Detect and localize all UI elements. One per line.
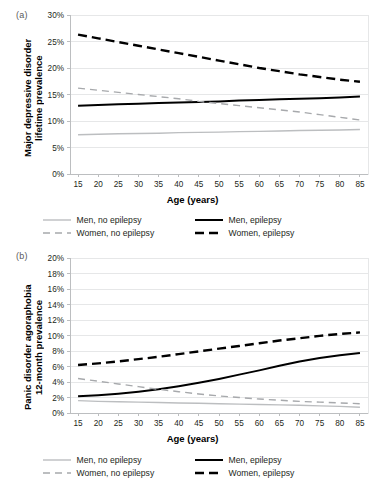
- legend-swatch-icon: [42, 455, 72, 465]
- y-tick-labels: 0%5%10%15%20%25%30%: [48, 11, 64, 179]
- legend-label: Men, no epilepsy: [77, 215, 142, 225]
- gridlines: [70, 258, 368, 413]
- x-tick-label: 45: [194, 419, 204, 428]
- x-tick-label: 30: [134, 419, 144, 428]
- series-line: [78, 332, 360, 365]
- x-tick-label: 60: [255, 419, 265, 428]
- chart-svg-b: 0%2%4%6%8%10%12%14%16%18%20%152025303540…: [38, 253, 378, 431]
- y-tick-label: 6%: [52, 363, 64, 372]
- x-tick-label: 45: [194, 180, 204, 189]
- y-tick-label: 0%: [52, 409, 64, 418]
- panel-b-label: (b): [16, 251, 28, 261]
- x-tick-label: 65: [275, 419, 285, 428]
- x-tick-label: 80: [335, 180, 345, 189]
- legend-label: Women, epilepsy: [229, 228, 295, 238]
- y-tick-label: 4%: [52, 378, 64, 387]
- y-tick-label: 16%: [48, 285, 64, 294]
- legend-label: Women, epilepsy: [229, 468, 295, 478]
- legend-swatch-icon: [42, 468, 72, 478]
- y-tick-label: 20%: [48, 64, 64, 73]
- x-tick-label: 70: [295, 419, 305, 428]
- x-tick-marks: [67, 15, 360, 177]
- y-tick-label: 8%: [52, 347, 64, 356]
- legend-swatch-icon: [42, 228, 72, 238]
- x-tick-labels: 152025303540455055606570758085: [73, 180, 364, 189]
- legend-item: Men, epilepsy: [194, 455, 344, 465]
- y-tick-label: 2%: [52, 394, 64, 403]
- x-tick-label: 25: [114, 419, 124, 428]
- y-tick-label: 30%: [48, 11, 64, 20]
- x-tick-label: 80: [335, 419, 345, 428]
- x-tick-label: 60: [255, 180, 265, 189]
- x-tick-label: 50: [214, 419, 224, 428]
- panel-b: (b) Panic disorder agoraphobia 12-month …: [0, 245, 385, 495]
- y-tick-label: 12%: [48, 316, 64, 325]
- x-tick-label: 40: [174, 180, 184, 189]
- legend-label: Men, epilepsy: [229, 215, 282, 225]
- panel-b-legend: Men, no epilepsyMen, epilepsyWomen, no e…: [0, 455, 385, 478]
- y-tick-label: 10%: [48, 117, 64, 126]
- series-group: [78, 332, 360, 407]
- gridlines: [70, 15, 368, 174]
- x-tick-label: 25: [114, 180, 124, 189]
- legend-item: Women, epilepsy: [194, 468, 344, 478]
- series-line: [78, 353, 360, 396]
- legend-item: Men, epilepsy: [194, 215, 344, 225]
- series-line: [78, 129, 360, 134]
- legend-item: Men, no epilepsy: [42, 215, 194, 225]
- legend-label: Women, no epilepsy: [77, 228, 155, 238]
- x-tick-label: 15: [73, 180, 83, 189]
- chart-svg-a: 0%5%10%15%20%25%30%152025303540455055606…: [38, 10, 378, 192]
- x-tick-label: 75: [315, 180, 325, 189]
- panel-b-x-axis-title: Age (years): [0, 433, 385, 444]
- legend-item: Women, no epilepsy: [42, 228, 194, 238]
- x-tick-label: 30: [134, 180, 144, 189]
- x-tick-label: 20: [94, 180, 104, 189]
- x-tick-label: 55: [235, 419, 245, 428]
- x-tick-label: 85: [355, 180, 365, 189]
- legend-label: Men, no epilepsy: [77, 455, 142, 465]
- legend-swatch-icon: [194, 455, 224, 465]
- x-tick-label: 50: [214, 180, 224, 189]
- legend-item: Women, no epilepsy: [42, 468, 194, 478]
- legend-label: Women, no epilepsy: [77, 468, 155, 478]
- x-tick-label: 75: [315, 419, 325, 428]
- x-tick-label: 55: [235, 180, 245, 189]
- y-tick-label: 0%: [52, 170, 64, 179]
- y-tick-label: 20%: [48, 254, 64, 263]
- legend-swatch-icon: [42, 215, 72, 225]
- y-tick-labels: 0%2%4%6%8%10%12%14%16%18%20%: [48, 254, 64, 418]
- legend-swatch-icon: [194, 468, 224, 478]
- series-line: [78, 97, 360, 106]
- legend-item: Women, epilepsy: [194, 228, 344, 238]
- figure-container: (a) Major depressive disorder lifetime p…: [0, 0, 385, 495]
- series-group: [78, 35, 360, 135]
- x-tick-label: 85: [355, 419, 365, 428]
- x-tick-label: 70: [295, 180, 305, 189]
- y-tick-label: 10%: [48, 332, 64, 341]
- legend-label: Men, epilepsy: [229, 455, 282, 465]
- x-tick-label: 35: [154, 180, 164, 189]
- y-tick-label: 5%: [52, 144, 64, 153]
- x-tick-labels: 152025303540455055606570758085: [73, 419, 364, 428]
- x-tick-label: 40: [174, 419, 184, 428]
- y-tick-label: 14%: [48, 301, 64, 310]
- legend-swatch-icon: [194, 228, 224, 238]
- x-tick-label: 20: [94, 419, 104, 428]
- y-tick-label: 25%: [48, 38, 64, 47]
- y-tick-label: 18%: [48, 270, 64, 279]
- x-tick-label: 65: [275, 180, 285, 189]
- x-tick-label: 35: [154, 419, 164, 428]
- x-tick-label: 15: [73, 419, 83, 428]
- panel-a: (a) Major depressive disorder lifetime p…: [0, 0, 385, 250]
- panel-a-plot-area: 0%5%10%15%20%25%30%152025303540455055606…: [38, 10, 378, 192]
- y-tick-label: 15%: [48, 91, 64, 100]
- panel-a-legend: Men, no epilepsyMen, epilepsyWomen, no e…: [0, 215, 385, 238]
- panel-a-x-axis-title: Age (years): [0, 194, 385, 205]
- legend-swatch-icon: [194, 215, 224, 225]
- legend-item: Men, no epilepsy: [42, 455, 194, 465]
- panel-b-plot-area: 0%2%4%6%8%10%12%14%16%18%20%152025303540…: [38, 253, 378, 431]
